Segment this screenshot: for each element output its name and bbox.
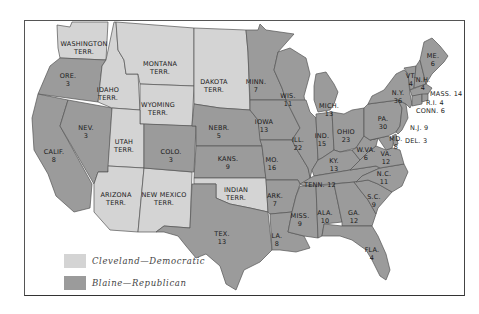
label-washington: WASHINGTONTERR.: [60, 40, 107, 56]
label-ohio: OHIO23: [337, 128, 355, 144]
legend-label-republican: Blaine—Republican: [92, 278, 186, 288]
region-florida: [322, 224, 390, 280]
label-vermont: VT.4: [406, 72, 416, 88]
label-kansas: KANS.9: [218, 155, 239, 171]
legend-item-democrat: Cleveland—Democratic: [64, 250, 205, 272]
label-colorado: COLO.3: [161, 148, 182, 164]
label-california: CALIF.8: [44, 148, 64, 164]
label-connecticut: CONN. 6: [416, 107, 445, 115]
region-dakota: [194, 28, 250, 110]
label-mississippi: MISS.9: [291, 212, 310, 228]
label-delaware: DEL. 3: [405, 137, 427, 145]
label-arizona: ARIZONATERR.: [100, 191, 131, 207]
label-new-york: N.Y.36: [392, 89, 404, 105]
label-minnesota: MINN.7: [246, 78, 266, 94]
label-indian-territory: INDIANTERR.: [224, 186, 248, 202]
label-oregon: ORE.3: [60, 72, 77, 88]
label-maine: ME.6: [427, 52, 439, 68]
label-indiana: IND.15: [315, 132, 330, 148]
label-kentucky: KY.13: [329, 157, 338, 173]
legend-swatch-democrat-spacer: [64, 255, 86, 268]
label-arkansas: ARK.7: [267, 192, 283, 208]
label-missouri: MO.16: [265, 156, 278, 172]
legend: Cleveland—Democratic Blaine—Republican: [64, 250, 205, 294]
label-north-carolina: N.C.11: [377, 170, 391, 186]
label-wisconsin: WIS.11: [280, 92, 295, 108]
label-virginia: VA.12: [380, 150, 391, 166]
region-connecticut: [412, 94, 422, 106]
label-west-virginia: W.VA.6: [356, 146, 375, 162]
label-nebraska: NEBR.5: [209, 124, 230, 140]
label-wyoming: WYOMINGTERR.: [141, 101, 175, 117]
label-new-mexico: NEW MEXICOTERR.: [141, 191, 186, 207]
label-florida: FLA.4: [365, 246, 380, 262]
legend-swatch-republican-spacer: [64, 277, 86, 290]
label-maryland: MD.8: [389, 135, 402, 151]
label-utah: UTAHTERR.: [114, 138, 134, 154]
label-idaho: IDAHOTERR.: [97, 86, 119, 102]
label-massachusetts: MASS. 14: [430, 90, 462, 98]
label-new-hampshire: N.H.4: [416, 76, 431, 92]
label-texas: TEX.13: [214, 230, 229, 246]
label-georgia: GA.12: [348, 209, 360, 225]
label-dakota: DAKOTATERR.: [200, 78, 227, 94]
label-illinois: ILL.22: [292, 136, 304, 152]
label-louisiana: LA.8: [272, 232, 283, 248]
label-iowa: IOWA13: [255, 118, 273, 134]
label-pennsylvania: PA.30: [378, 115, 389, 131]
label-tennessee: TENN. 12: [304, 181, 336, 189]
label-rhode-island: R.I. 4: [426, 99, 444, 107]
label-new-jersey: N.J. 9: [410, 124, 428, 132]
label-alabama: ALA.10: [317, 209, 332, 225]
label-nevada: NEV.3: [78, 124, 93, 140]
label-montana: MONTANATERR.: [143, 60, 177, 76]
label-michigan: MICH.13: [319, 102, 339, 118]
legend-label-democrat: Cleveland—Democratic: [92, 256, 205, 266]
label-south-carolina: S.C.9: [367, 193, 381, 209]
legend-item-republican: Blaine—Republican: [64, 272, 205, 294]
